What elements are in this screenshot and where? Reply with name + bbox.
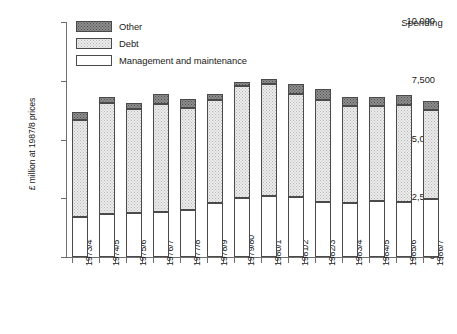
legend-item-debt[interactable]: Debt bbox=[76, 36, 247, 51]
bar-segment-other bbox=[180, 99, 196, 108]
bar-segment-other bbox=[261, 79, 277, 84]
y-tick-0 bbox=[61, 257, 66, 258]
legend-swatch-mgmt bbox=[76, 55, 112, 66]
x-tick bbox=[99, 258, 100, 263]
bar-segment-debt bbox=[99, 103, 115, 214]
bar-segment-mgmt bbox=[153, 212, 169, 257]
bar-segment-mgmt bbox=[423, 199, 439, 257]
x-tick bbox=[396, 258, 397, 263]
y-axis-title: £ million at 1987/8 prices bbox=[27, 49, 37, 239]
bar-segment-other bbox=[369, 97, 385, 106]
bar-segment-mgmt bbox=[396, 202, 412, 257]
bar-segment-mgmt bbox=[180, 210, 196, 257]
bar-segment-other bbox=[99, 97, 115, 103]
bar-segment-other bbox=[126, 103, 142, 109]
y-tick-10000 bbox=[61, 22, 66, 23]
legend-item-mgmt[interactable]: Management and maintenance bbox=[76, 53, 247, 68]
bar-segment-other bbox=[234, 82, 250, 86]
bar-segment-debt bbox=[180, 108, 196, 210]
bar-segment-mgmt bbox=[234, 198, 250, 257]
bar-segment-debt bbox=[261, 84, 277, 196]
bar-segment-other bbox=[315, 89, 331, 100]
y-tick-5000 bbox=[61, 140, 66, 141]
bar-segment-other bbox=[153, 94, 169, 104]
x-tick bbox=[342, 258, 343, 263]
bar-1985-6[interactable] bbox=[396, 95, 412, 257]
y-axis-line bbox=[66, 22, 67, 258]
y-tick-label: 7,500 bbox=[389, 75, 435, 85]
bar-segment-debt bbox=[153, 104, 169, 212]
bar-segment-other bbox=[342, 97, 358, 106]
bar-1980-1[interactable] bbox=[261, 79, 277, 257]
x-tick bbox=[180, 258, 181, 263]
bar-segment-other bbox=[207, 94, 223, 100]
bar-segment-mgmt bbox=[288, 197, 304, 257]
bar-1983-4[interactable] bbox=[342, 97, 358, 257]
bar-segment-other bbox=[423, 101, 439, 110]
bar-1975-6[interactable] bbox=[126, 103, 142, 257]
chart-legend: OtherDebtManagement and maintenance bbox=[76, 19, 247, 70]
legend-label: Other bbox=[119, 21, 142, 32]
bar-1973-4[interactable] bbox=[72, 112, 88, 257]
bar-segment-debt bbox=[234, 86, 250, 198]
bar-segment-other bbox=[288, 84, 304, 94]
x-tick bbox=[72, 258, 73, 263]
bar-1986-7[interactable] bbox=[423, 101, 439, 257]
legend-item-other[interactable]: Other bbox=[76, 19, 247, 34]
bar-segment-debt bbox=[423, 110, 439, 199]
legend-label: Management and maintenance bbox=[119, 55, 247, 66]
legend-swatch-debt bbox=[76, 38, 112, 49]
legend-swatch-other bbox=[76, 21, 112, 32]
bar-segment-debt bbox=[315, 100, 331, 202]
bar-1976-7[interactable] bbox=[153, 94, 169, 257]
bar-segment-mgmt bbox=[126, 213, 142, 257]
bar-1981-2[interactable] bbox=[288, 84, 304, 257]
bar-segment-mgmt bbox=[72, 217, 88, 257]
bar-segment-mgmt bbox=[261, 196, 277, 257]
bar-segment-debt bbox=[72, 120, 88, 218]
bar-segment-debt bbox=[369, 106, 385, 201]
bar-segment-debt bbox=[342, 106, 358, 203]
x-tick bbox=[288, 258, 289, 263]
bar-1982-3[interactable] bbox=[315, 89, 331, 257]
bar-segment-other bbox=[72, 112, 88, 119]
bar-segment-mgmt bbox=[99, 214, 115, 257]
x-tick bbox=[234, 258, 235, 263]
y-tick-2500 bbox=[61, 198, 66, 199]
x-tick bbox=[423, 258, 424, 263]
stacked-bar-chart-figure: Spending £ million at 1987/8 prices 02,5… bbox=[0, 0, 457, 334]
bar-segment-debt bbox=[288, 94, 304, 197]
bar-segment-debt bbox=[126, 109, 142, 213]
bar-1978-9[interactable] bbox=[207, 94, 223, 257]
bar-1979-80[interactable] bbox=[234, 82, 250, 257]
bar-1977-8[interactable] bbox=[180, 99, 196, 257]
bar-1974-5[interactable] bbox=[99, 97, 115, 257]
x-tick bbox=[207, 258, 208, 263]
bar-segment-mgmt bbox=[207, 203, 223, 257]
bar-1984-5[interactable] bbox=[369, 97, 385, 257]
bar-segment-mgmt bbox=[342, 203, 358, 257]
bar-segment-other bbox=[396, 95, 412, 105]
x-tick bbox=[369, 258, 370, 263]
x-tick bbox=[261, 258, 262, 263]
x-tick bbox=[153, 258, 154, 263]
y-tick-7500 bbox=[61, 81, 66, 82]
x-tick bbox=[315, 258, 316, 263]
y-tick-label: 10,000 bbox=[389, 16, 435, 26]
legend-label: Debt bbox=[119, 38, 139, 49]
bar-segment-debt bbox=[396, 105, 412, 202]
bar-segment-mgmt bbox=[315, 202, 331, 257]
x-tick bbox=[126, 258, 127, 263]
bar-segment-mgmt bbox=[369, 201, 385, 257]
bar-segment-debt bbox=[207, 100, 223, 203]
